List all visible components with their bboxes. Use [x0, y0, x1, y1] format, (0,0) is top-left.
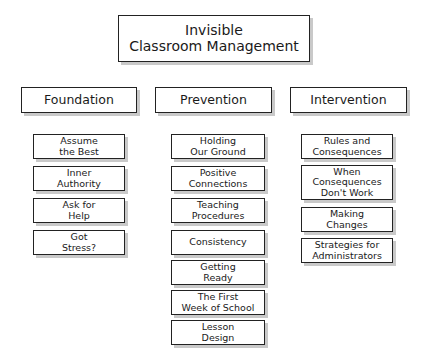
topic-box-line2: Stress? [62, 243, 96, 254]
column-header-prevention: Prevention [155, 87, 272, 113]
diagram-title-text: Invisible Classroom Management [129, 23, 299, 54]
topic-box: HoldingOur Ground [171, 134, 265, 159]
diagram-canvas: Invisible Classroom Management Foundatio… [0, 0, 427, 359]
topic-box: PositiveConnections [171, 166, 265, 191]
column-header-intervention: Intervention [290, 87, 407, 113]
topic-box-line2: Week of School [182, 303, 255, 314]
topic-box-text: HoldingOur Ground [190, 136, 245, 157]
topic-box-line2: Authority [57, 179, 101, 190]
topic-box-line2: Connections [189, 179, 248, 190]
topic-box-line1: Inner [67, 167, 92, 178]
topic-box-line1: Assume [60, 135, 98, 146]
topic-box-line1: Holding [200, 135, 236, 146]
topic-box-line1: Rules and [324, 135, 371, 146]
topic-box: Rules andConsequences [301, 134, 393, 159]
diagram-title-line2: Classroom Management [129, 39, 299, 55]
topic-box: Assumethe Best [33, 134, 125, 159]
topic-box-line1: The First [198, 291, 239, 302]
topic-box-line1: Consistency [189, 236, 246, 247]
topic-box-text: Rules andConsequences [312, 136, 381, 157]
topic-box-text: PositiveConnections [189, 168, 248, 189]
topic-box-line1: Positive [200, 167, 237, 178]
topic-box-line1: Teaching [197, 199, 239, 210]
topic-box: MakingChanges [301, 207, 393, 232]
topic-box-line2: Procedures [192, 211, 245, 222]
topic-box-text: GettingReady [200, 262, 235, 283]
topic-box: TeachingProcedures [171, 198, 265, 223]
topic-box-line2: Changes [326, 220, 367, 231]
topic-box-line1: When [333, 166, 360, 177]
topic-box-text: MakingChanges [326, 209, 367, 230]
topic-box-text: LessonDesign [202, 322, 235, 343]
topic-box-line2: Consequences [312, 147, 381, 158]
column-header-prevention-label: Prevention [180, 93, 247, 107]
topic-box: Ask forHelp [33, 198, 125, 223]
topic-box-text: Ask forHelp [62, 200, 95, 221]
topic-box-line1: Ask for [62, 199, 95, 210]
topic-box-text: TeachingProcedures [192, 200, 245, 221]
topic-box: Consistency [171, 230, 265, 255]
topic-box-line2: Ready [200, 273, 235, 284]
topic-box: WhenConsequencesDon't Work [301, 165, 393, 200]
column-header-foundation: Foundation [21, 87, 137, 113]
diagram-title-line1: Invisible [185, 22, 243, 38]
column-header-foundation-label: Foundation [44, 93, 114, 107]
topic-box-line1: Making [330, 208, 364, 219]
topic-box-line2: Administrators [312, 251, 382, 262]
topic-box: GotStress? [33, 230, 125, 255]
topic-box-line1: Got [71, 231, 88, 242]
column-header-intervention-label: Intervention [310, 93, 386, 107]
topic-box-text: GotStress? [62, 232, 96, 253]
topic-box-line2: Design [202, 333, 235, 344]
topic-box: LessonDesign [171, 320, 265, 345]
topic-box-text: Strategies forAdministrators [312, 240, 382, 261]
topic-box-line3: Don't Work [312, 188, 381, 199]
topic-box-line2: Our Ground [190, 147, 245, 158]
topic-box-line2: the Best [59, 147, 99, 158]
topic-box-text: WhenConsequencesDon't Work [312, 167, 381, 199]
topic-box-line1: Lesson [202, 321, 235, 332]
topic-box-text: Assumethe Best [59, 136, 99, 157]
topic-box-line2: Help [62, 211, 95, 222]
topic-box: Strategies forAdministrators [301, 238, 393, 263]
topic-box-line1: Strategies for [315, 239, 380, 250]
topic-box-text: Consistency [189, 237, 246, 248]
diagram-title-box: Invisible Classroom Management [118, 15, 310, 62]
topic-box-text: InnerAuthority [57, 168, 101, 189]
topic-box: InnerAuthority [33, 166, 125, 191]
topic-box-text: The FirstWeek of School [182, 292, 255, 313]
topic-box: The FirstWeek of School [171, 290, 265, 315]
topic-box-line1: Getting [200, 261, 235, 272]
topic-box: GettingReady [171, 260, 265, 285]
